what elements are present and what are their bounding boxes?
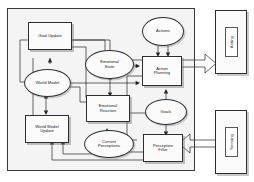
- diagram-canvas: Goal Update World Model World Model Upda…: [0, 0, 254, 182]
- node-goal-update[interactable]: Goal Update: [28, 22, 72, 50]
- node-actions-label: Actions: [156, 29, 170, 33]
- acting-inner-frame: Acting: [225, 27, 238, 57]
- node-acting-label: Acting: [229, 36, 234, 48]
- node-action-planning[interactable]: Action Planning: [142, 56, 182, 86]
- node-sensing-external[interactable]: Sensing: [215, 110, 247, 174]
- node-perception-filter-label: Perception Filter: [153, 144, 173, 153]
- node-perception-filter[interactable]: Perception Filter: [143, 134, 183, 162]
- node-world-model-label: World Model: [36, 81, 59, 85]
- node-sensing-label: Sensing: [229, 134, 234, 150]
- node-current-perceptions[interactable]: Current Perceptions: [84, 130, 134, 158]
- node-emotional-state[interactable]: Emotional State: [85, 50, 134, 79]
- sensing-inner-frame: Sensing: [225, 127, 238, 157]
- node-world-model[interactable]: World Model: [24, 69, 71, 97]
- node-current-perceptions-label: Current Perceptions: [98, 140, 120, 149]
- node-action-planning-label: Action Planning: [154, 67, 170, 76]
- node-goal-update-label: Goal Update: [38, 34, 62, 38]
- node-emotional-reaction-label: Emotional Reaction: [99, 104, 118, 113]
- node-goals-label: Goals: [161, 110, 172, 114]
- node-emotional-state-label: Emotional State: [100, 60, 119, 69]
- node-acting-external[interactable]: Acting: [215, 10, 247, 74]
- node-goals[interactable]: Goals: [145, 99, 187, 125]
- node-emotional-reaction[interactable]: Emotional Reaction: [86, 95, 130, 122]
- node-actions[interactable]: Actions: [142, 17, 184, 46]
- node-world-model-update-label: World Model Update: [35, 125, 58, 134]
- node-world-model-update[interactable]: World Model Update: [25, 115, 69, 143]
